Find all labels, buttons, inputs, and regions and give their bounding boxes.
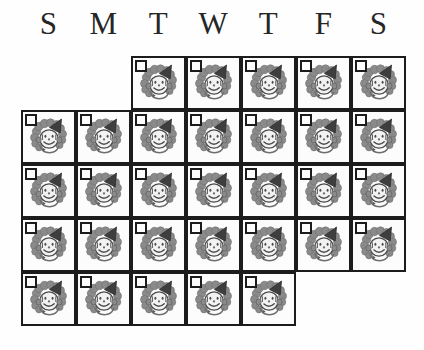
empty-checkbox[interactable] — [80, 276, 92, 288]
day-cell[interactable] — [76, 164, 131, 218]
day-cell[interactable] — [131, 272, 186, 326]
weekday-header-row: SMTWTFS — [21, 4, 405, 46]
day-cell[interactable] — [351, 218, 406, 272]
day-cell[interactable] — [351, 56, 406, 110]
day-cell[interactable] — [131, 110, 186, 164]
empty-checkbox[interactable] — [355, 168, 367, 180]
empty-checkbox[interactable] — [355, 222, 367, 234]
empty-checkbox[interactable] — [300, 168, 312, 180]
weekday-label-wednesday: W — [186, 4, 241, 44]
weekday-label-tuesday: T — [131, 4, 186, 44]
empty-checkbox[interactable] — [190, 114, 202, 126]
empty-checkbox[interactable] — [300, 114, 312, 126]
weekday-label-friday: F — [296, 4, 351, 44]
day-cell[interactable] — [296, 110, 351, 164]
empty-checkbox[interactable] — [355, 114, 367, 126]
weekday-label-sunday: S — [21, 4, 76, 44]
empty-checkbox[interactable] — [25, 168, 37, 180]
empty-checkbox[interactable] — [190, 222, 202, 234]
day-cell[interactable] — [241, 218, 296, 272]
empty-checkbox[interactable] — [245, 60, 257, 72]
empty-checkbox[interactable] — [135, 60, 147, 72]
day-cell[interactable] — [351, 164, 406, 218]
day-cell[interactable] — [131, 218, 186, 272]
weekday-label-thursday: T — [241, 4, 296, 44]
empty-checkbox[interactable] — [80, 222, 92, 234]
day-cell[interactable] — [241, 164, 296, 218]
day-cell[interactable] — [241, 110, 296, 164]
empty-checkbox[interactable] — [25, 276, 37, 288]
day-cell[interactable] — [76, 272, 131, 326]
day-cell[interactable] — [241, 56, 296, 110]
day-cell[interactable] — [296, 164, 351, 218]
empty-checkbox[interactable] — [135, 222, 147, 234]
day-cell[interactable] — [186, 56, 241, 110]
empty-checkbox[interactable] — [245, 222, 257, 234]
day-cell[interactable] — [76, 110, 131, 164]
empty-checkbox[interactable] — [25, 114, 37, 126]
empty-checkbox[interactable] — [355, 60, 367, 72]
weekday-label-monday: M — [76, 4, 131, 44]
day-cell[interactable] — [351, 110, 406, 164]
empty-checkbox[interactable] — [300, 222, 312, 234]
day-cell[interactable] — [186, 218, 241, 272]
empty-checkbox[interactable] — [80, 168, 92, 180]
day-cell[interactable] — [296, 56, 351, 110]
empty-checkbox[interactable] — [135, 276, 147, 288]
empty-checkbox[interactable] — [80, 114, 92, 126]
empty-checkbox[interactable] — [190, 168, 202, 180]
empty-checkbox[interactable] — [25, 222, 37, 234]
day-cell[interactable] — [186, 164, 241, 218]
day-cell[interactable] — [131, 56, 186, 110]
day-cell[interactable] — [21, 218, 76, 272]
day-cell[interactable] — [296, 218, 351, 272]
day-cell[interactable] — [241, 272, 296, 326]
weekday-label-saturday: S — [351, 4, 406, 44]
calendar-page: SMTWTFS — [0, 0, 424, 350]
empty-checkbox[interactable] — [190, 60, 202, 72]
empty-checkbox[interactable] — [245, 114, 257, 126]
empty-checkbox[interactable] — [300, 60, 312, 72]
empty-checkbox[interactable] — [190, 276, 202, 288]
day-cell[interactable] — [76, 218, 131, 272]
empty-checkbox[interactable] — [245, 168, 257, 180]
day-cell[interactable] — [186, 110, 241, 164]
day-cell[interactable] — [21, 272, 76, 326]
calendar-grid — [21, 56, 405, 324]
empty-checkbox[interactable] — [135, 114, 147, 126]
empty-checkbox[interactable] — [135, 168, 147, 180]
day-cell[interactable] — [21, 164, 76, 218]
day-cell[interactable] — [21, 110, 76, 164]
day-cell[interactable] — [186, 272, 241, 326]
day-cell[interactable] — [131, 164, 186, 218]
empty-checkbox[interactable] — [245, 276, 257, 288]
